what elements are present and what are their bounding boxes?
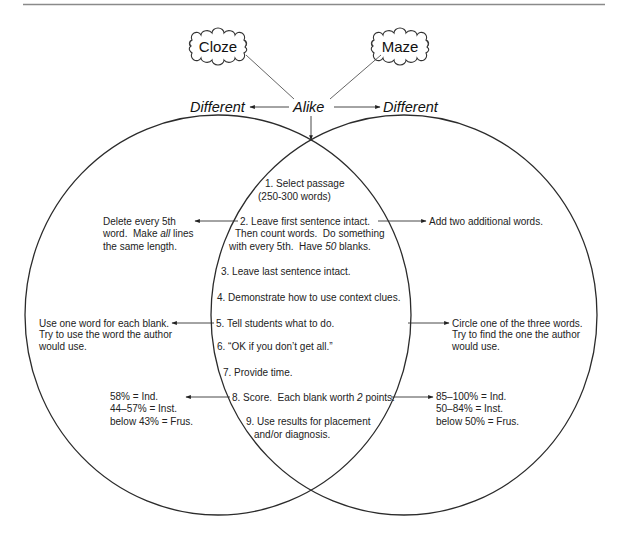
maze-label: Maze (382, 38, 419, 55)
different-left-label: Different (190, 99, 246, 115)
maze-differences: Add two additional words. Circle one of … (0, 0, 602, 427)
step-4: 4. Demonstrate how to use context clues. (217, 292, 400, 303)
maze-scoring: 85–100% = Ind. 50–84% = Inst. below 50% … (0, 0, 533, 427)
step-7: 7. Provide time. (223, 367, 292, 378)
cloze-label: Cloze (199, 38, 237, 55)
step-5: 5. Tell students what to do. (216, 318, 334, 329)
maze-cloud: Maze (371, 28, 429, 65)
alike-label: Alike (292, 99, 324, 115)
cloze-circle (25, 115, 411, 515)
maze-construction: Add two additional words. (429, 216, 543, 227)
cloze-differences: Delete every 5th word. Make all lines th… (0, 0, 213, 427)
step-3: 3. Leave last sentence intact. (221, 266, 351, 277)
cloze-construction: Delete every 5th word. Make all lines th… (0, 0, 213, 252)
maze-connector-line (330, 55, 381, 99)
shared-steps: 1. Select passage (250-300 words) 2. Lea… (0, 0, 409, 440)
venn-diagram: Cloze Maze Different Alike Different 1. … (0, 0, 617, 544)
different-right-label: Different (383, 99, 439, 115)
cloze-instructions: Use one word for each blank. Try to use … (0, 0, 192, 352)
maze-circle (211, 115, 597, 515)
cloze-connector-line (246, 55, 294, 99)
step-6: 6. “OK if you don’t get all.” (217, 341, 333, 352)
cloze-cloud: Cloze (189, 28, 247, 65)
